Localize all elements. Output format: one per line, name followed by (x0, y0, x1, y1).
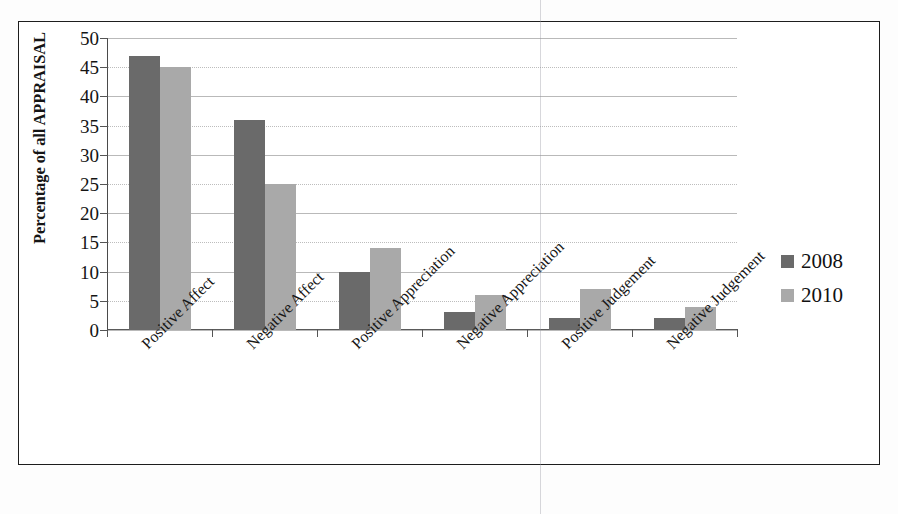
x-axis-category-labels: Positive AffectNegative AffectPositive A… (107, 334, 767, 484)
y-axis-tick-label: 30 (80, 146, 99, 165)
y-axis-tick-label: 35 (80, 117, 99, 136)
y-axis-tick-label: 10 (80, 263, 99, 282)
legend-swatch-icon (781, 255, 794, 268)
legend-label: 2008 (801, 251, 843, 272)
y-axis-tick-label: 45 (80, 58, 99, 77)
chart-border-frame: Percentage of all APPRAISAL 051015202530… (18, 21, 880, 465)
chart-legend: 20082010 (781, 244, 891, 312)
legend-swatch-icon (781, 289, 794, 302)
y-axis-tick-label: 25 (80, 175, 99, 194)
y-axis-tick-label: 20 (80, 204, 99, 223)
y-axis-tick-label: 15 (80, 233, 99, 252)
bar-2008-negative-affect[interactable] (234, 120, 265, 330)
y-axis-title: Percentage of all APPRAISAL (30, 13, 50, 263)
y-axis-tick-label: 50 (80, 29, 99, 48)
y-axis-tick-label: 5 (90, 292, 100, 311)
legend-label: 2010 (801, 285, 843, 306)
y-axis-tick-label: 0 (90, 321, 100, 340)
bar-2008-positive-affect[interactable] (129, 56, 160, 330)
y-axis-tick-labels: 05101520253035404550 (55, 38, 99, 330)
legend-item-2010[interactable]: 2010 (781, 278, 891, 312)
legend-item-2008[interactable]: 2008 (781, 244, 891, 278)
chart-figure: Percentage of all APPRAISAL 051015202530… (0, 0, 898, 514)
y-axis-tick-label: 40 (80, 87, 99, 106)
